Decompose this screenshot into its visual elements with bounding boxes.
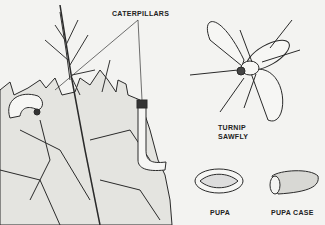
- turnip-sawfly: [190, 20, 300, 121]
- pupa-label: PUPA: [210, 209, 230, 217]
- pupa-drawing: [195, 169, 243, 193]
- pupa-case-label: PUPA CASE: [271, 209, 314, 217]
- pupa-case-drawing: [270, 171, 318, 194]
- caterpillars-label: CATERPILLARS: [112, 10, 169, 18]
- sawfly-label-line1: TURNIP: [218, 124, 246, 132]
- sawfly-label-line2: SAWFLY: [218, 133, 248, 141]
- illustration-canvas: [0, 0, 325, 225]
